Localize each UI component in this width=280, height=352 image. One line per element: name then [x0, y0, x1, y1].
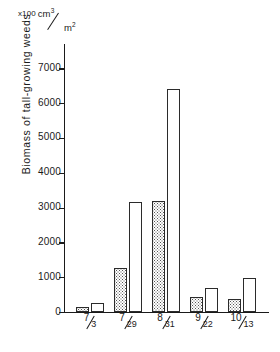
bar-stippled-10-13 [228, 299, 241, 312]
y-tick-label: 1000 [38, 271, 61, 282]
y-tick-label: 7000 [38, 62, 61, 73]
bar-open-9-22 [205, 288, 218, 312]
date-fraction: 729 [119, 316, 137, 326]
unit-numerator-exponent: 3 [51, 7, 55, 14]
bar-open-8-31 [167, 89, 180, 312]
fraction-denominator: 3 [91, 319, 96, 329]
bar-open-10-13 [243, 278, 256, 312]
fraction-denominator: 13 [244, 319, 254, 329]
y-axis-title: Biomass of tall-growing weeds [20, 0, 32, 214]
date-fraction: 73 [84, 316, 97, 326]
y-tick-label: 0 [55, 306, 61, 317]
unit-numerator: cm [38, 8, 51, 19]
bar-open-7-29 [129, 202, 142, 312]
chart-figure: x100cm3 m2 Biomass of tall-growing weeds… [0, 0, 280, 352]
fraction-denominator: 29 [127, 319, 137, 329]
y-tick-label: 3000 [38, 201, 61, 212]
y-tick-label: 2000 [38, 236, 61, 247]
fraction-numerator: 8 [157, 312, 163, 323]
bar-stippled-9-22 [190, 297, 203, 312]
bar-stippled-7-29 [114, 268, 127, 312]
fraction-numerator: 7 [119, 312, 125, 323]
bar-open-7-3 [91, 303, 104, 312]
date-fraction: 1013 [230, 316, 253, 326]
y-tick-label: 6000 [38, 97, 61, 108]
unit-denominator-exponent: 2 [72, 21, 76, 28]
fraction-denominator: 31 [165, 319, 175, 329]
fraction-numerator: 10 [230, 312, 241, 323]
unit-denominator-group: m2 [64, 22, 76, 33]
bar-stippled-8-31 [152, 201, 165, 312]
fraction-denominator: 22 [203, 319, 213, 329]
date-fraction: 831 [157, 316, 175, 326]
date-fraction: 922 [195, 316, 213, 326]
x-tick-label: 1013 [214, 316, 270, 326]
y-tick-label: 5000 [38, 131, 61, 142]
y-axis-line [64, 44, 65, 312]
unit-denominator: m [64, 22, 72, 33]
fraction-numerator: 7 [84, 312, 90, 323]
plot-area: 01000200030004000500060007000 7372983192… [64, 44, 264, 312]
y-tick-label: 4000 [38, 166, 61, 177]
fraction-numerator: 9 [195, 312, 201, 323]
